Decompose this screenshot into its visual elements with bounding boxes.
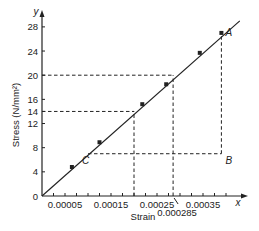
y-tick-label: 14 xyxy=(27,106,38,117)
y-tick-label: 4 xyxy=(33,166,38,177)
y-tick-label: 0 xyxy=(33,191,38,202)
data-point xyxy=(198,51,202,55)
data-point xyxy=(98,140,102,144)
x-axis-variable: x xyxy=(235,197,242,208)
y-tick-label: 28 xyxy=(27,21,38,32)
strain-callout-label: 0.000285 xyxy=(157,207,197,218)
data-point xyxy=(164,82,168,86)
y-tick-label: 16 xyxy=(27,94,38,105)
callout-leader xyxy=(174,198,178,204)
y-axis-arrow-icon xyxy=(40,10,45,17)
point-label-c: C xyxy=(82,155,90,166)
y-tick-label: 12 xyxy=(27,118,38,129)
x-tick-label: 0.00015 xyxy=(94,199,128,210)
x-axis-title: Strain xyxy=(131,211,156,222)
data-point xyxy=(219,31,223,35)
point-label-a: A xyxy=(224,27,232,38)
data-series xyxy=(42,21,240,196)
x-axis-arrow-icon xyxy=(241,194,248,199)
y-tick-label: 20 xyxy=(27,70,38,81)
y-axis-variable: y xyxy=(33,6,40,17)
y-axis-title: Stress (N/mm²) xyxy=(10,83,21,147)
labels: Strain Stress (N/mm²) x y 0.000050.00015… xyxy=(10,6,242,222)
stress-strain-line xyxy=(42,21,240,196)
data-point xyxy=(70,165,74,169)
stress-strain-chart: Strain Stress (N/mm²) x y 0.000050.00015… xyxy=(0,0,259,231)
data-point xyxy=(140,102,144,106)
y-tick-label: 24 xyxy=(27,46,38,57)
point-label-b: B xyxy=(225,155,232,166)
y-tick-label: 8 xyxy=(33,142,38,153)
x-tick-label: 0.00005 xyxy=(48,199,82,210)
